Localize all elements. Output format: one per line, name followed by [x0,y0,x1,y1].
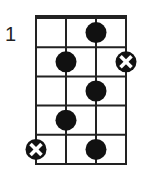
finger-dot [86,81,107,102]
finger-dot [56,110,77,131]
finger-dot [56,51,77,72]
finger-dot [86,22,107,43]
nut [35,15,127,19]
chord-diagram [0,0,144,176]
finger-dot [86,139,107,160]
